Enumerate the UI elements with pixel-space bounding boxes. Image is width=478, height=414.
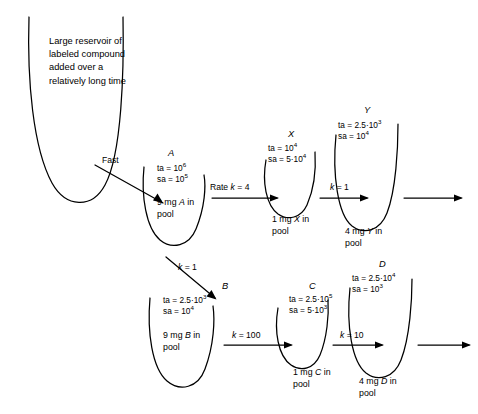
pool-B-amount-line1: 9 mg B in [163, 330, 200, 342]
pool-B-sa: sa = 104 [163, 306, 206, 317]
pool-B-ta-key: ta = [163, 295, 177, 305]
pool-Y-amount-line1: 4 mg Y in [345, 226, 382, 238]
pool-B-ta: ta = 2.5·103 [163, 295, 206, 306]
pool-D-ta-key: ta = [352, 273, 366, 283]
pool-label-A: A [168, 148, 174, 159]
flow-label-A-to-X: Rate k = 4 [210, 182, 249, 192]
pool-label-C: C [309, 281, 316, 292]
pool-label-Y: Y [364, 105, 370, 116]
pool-B-amount-line2: pool [163, 342, 200, 354]
pool-X-ta-key: ta = [268, 143, 282, 153]
pool-C-sa-exp: 3 [324, 304, 327, 311]
flow-label-X-to-Y: k = 1 [330, 182, 349, 192]
arrow-D-out-head [462, 342, 471, 349]
pool-X-ta-value: 10 [284, 143, 293, 153]
pool-Y-sa-exp: 4 [365, 130, 368, 137]
pool-X-ta-exp: 4 [294, 141, 297, 148]
pool-B-stats: ta = 2.5·103 sa = 104 [163, 295, 206, 318]
pool-A-ta-value: 10 [173, 163, 182, 173]
pool-B-sa-key: sa = [163, 306, 179, 316]
pool-C-sa-key: sa = [289, 305, 305, 315]
pool-B-ta-value: 2.5·10 [179, 295, 203, 305]
pool-X-sa-value: 5·10 [286, 154, 303, 164]
diagram-canvas: Large reservoir of labeled compound adde… [0, 0, 478, 414]
pool-Y-stats: ta = 2.5·103 sa = 104 [338, 120, 381, 143]
pool-D-ta-exp: 4 [392, 271, 395, 278]
pool-A-stats: ta = 106 sa = 105 [157, 163, 188, 186]
pool-D-amount: 4 mg D in pool [359, 376, 397, 399]
pool-Y-ta-exp: 3 [378, 118, 381, 125]
pool-X-amount: 1 mg X in pool [272, 214, 309, 237]
arrow-B-to-C-head [284, 342, 293, 349]
pool-D-sa-key: sa = [352, 284, 368, 294]
pool-A-amount: 9 mg A in pool [157, 197, 194, 220]
pool-C-ta-key: ta = [289, 294, 303, 304]
pool-X-ta: ta = 104 [268, 143, 306, 154]
pool-Y-ta-key: ta = [338, 120, 352, 130]
pool-A-sa-exp: 5 [184, 173, 187, 180]
pool-C-stats: ta = 2.5·105 sa = 5·103 [289, 294, 332, 317]
pool-label-B: B [222, 281, 228, 292]
flow-label-B-to-C: k = 100 [232, 330, 260, 340]
pool-D-amount-line1: 4 mg D in [359, 376, 397, 388]
pool-D-ta-value: 2.5·10 [368, 273, 392, 283]
flow-label-C-to-D: k = 10 [340, 330, 364, 340]
pool-Y-ta: ta = 2.5·103 [338, 120, 381, 131]
pool-D-amount-line2: pool [359, 388, 397, 400]
pool-D-sa: sa = 103 [352, 284, 395, 295]
pool-B-ta-exp: 3 [203, 293, 206, 300]
pool-C-sa: sa = 5·103 [289, 305, 332, 316]
pool-X-sa-exp: 4 [303, 153, 306, 160]
pool-B-sa-exp: 4 [190, 305, 193, 312]
pool-Y-amount-line2: pool [345, 238, 382, 250]
pool-D-sa-exp: 3 [379, 283, 382, 290]
pool-C-ta-exp: 5 [329, 292, 332, 299]
pool-C-amount: 1 mg C in pool [293, 367, 331, 390]
arrow-C-to-D-head [375, 342, 384, 349]
pool-A-sa: sa = 105 [157, 174, 188, 185]
reservoir-caption: Large reservoir of labeled compound adde… [49, 35, 141, 88]
pool-C-amount-line2: pool [293, 379, 331, 391]
pool-D-ta: ta = 2.5·104 [352, 273, 395, 284]
arrow-X-to-Y-head [360, 195, 369, 202]
pool-C-sa-value: 5·10 [307, 305, 324, 315]
pool-Y-ta-value: 2.5·10 [354, 120, 378, 130]
pool-X-stats: ta = 104 sa = 5·104 [268, 143, 306, 166]
pool-label-X: X [288, 129, 294, 140]
pool-A-ta-key: ta = [157, 163, 171, 173]
pool-A-ta-exp: 6 [183, 161, 186, 168]
pool-X-sa-key: sa = [268, 154, 284, 164]
flow-label-fast: Fast [102, 155, 119, 165]
pool-A-sa-key: sa = [157, 174, 173, 184]
pool-Y-sa: sa = 104 [338, 131, 381, 142]
pool-A-amount-line1: 9 mg A in [157, 197, 194, 209]
arrow-A-to-X-head [270, 195, 279, 202]
pool-B-amount: 9 mg B in pool [163, 330, 200, 353]
arrow-Y-out-head [454, 195, 463, 202]
pool-X-sa: sa = 5·104 [268, 154, 306, 165]
pool-C-amount-line1: 1 mg C in [293, 367, 331, 379]
pool-X-amount-line1: 1 mg X in [272, 214, 309, 226]
pool-C-ta-value: 2.5·10 [305, 294, 329, 304]
pool-A-amount-line2: pool [157, 209, 194, 221]
pool-X-amount-line2: pool [272, 226, 309, 238]
pool-Y-sa-key: sa = [338, 131, 354, 141]
pool-Y-amount: 4 mg Y in pool [345, 226, 382, 249]
pool-D-stats: ta = 2.5·104 sa = 103 [352, 273, 395, 296]
flow-label-A-to-B: k = 1 [178, 262, 197, 272]
pool-label-D: D [379, 259, 386, 270]
